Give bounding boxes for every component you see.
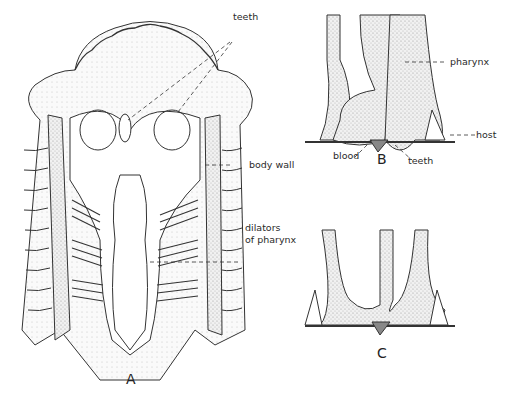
figure-b-drawing: [305, 15, 475, 160]
label-body-wall: body wall: [249, 160, 294, 170]
label-blood: blood: [333, 151, 359, 161]
label-teeth-b: teeth: [408, 156, 433, 166]
figure-letter-b: B: [377, 152, 387, 166]
figure-letter-a: A: [126, 372, 136, 386]
label-dilators-line2: of pharynx: [245, 235, 296, 245]
figure-c-drawing: [305, 230, 455, 335]
figure-letter-c: C: [377, 346, 387, 360]
label-dilators-line1: dilators: [245, 223, 281, 233]
label-pharynx: pharynx: [450, 57, 489, 67]
figure-a-drawing: [22, 22, 252, 381]
label-teeth-a: teeth: [233, 12, 258, 22]
label-host: host: [476, 130, 497, 140]
diagram-canvas: [0, 0, 510, 397]
